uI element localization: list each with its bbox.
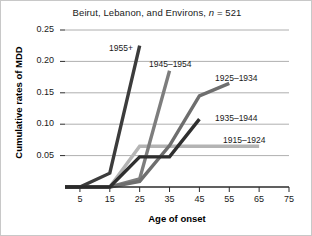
series-label: 1915–1924 xyxy=(223,135,266,145)
series-label: 1955+ xyxy=(109,43,133,53)
series-label: 1945–1954 xyxy=(149,59,192,69)
x-tick-label: 25 xyxy=(128,194,152,204)
x-tick-label: 15 xyxy=(98,194,122,204)
chart-figure: Beirut, Lebanon, and Environs, n = 521 C… xyxy=(0,0,312,236)
x-tick-label: 5 xyxy=(68,194,92,204)
y-tick-label: 0.25 xyxy=(14,24,54,34)
series-label: 1935–1944 xyxy=(215,113,258,123)
x-tick-label: 75 xyxy=(277,194,301,204)
x-tick-label: 45 xyxy=(187,194,211,204)
y-tick-label: 0.20 xyxy=(14,55,54,65)
y-tick-label: 0.15 xyxy=(14,87,54,97)
y-tick-label: 0.05 xyxy=(14,150,54,160)
x-tick-label: 65 xyxy=(247,194,271,204)
series-line xyxy=(65,83,229,187)
y-tick-marks-group xyxy=(60,30,65,156)
x-tick-label: 55 xyxy=(217,194,241,204)
series-label: 1925–1934 xyxy=(215,73,258,83)
x-tick-label: 35 xyxy=(158,194,182,204)
y-tick-label: 0.10 xyxy=(14,118,54,128)
series-line xyxy=(65,71,170,187)
